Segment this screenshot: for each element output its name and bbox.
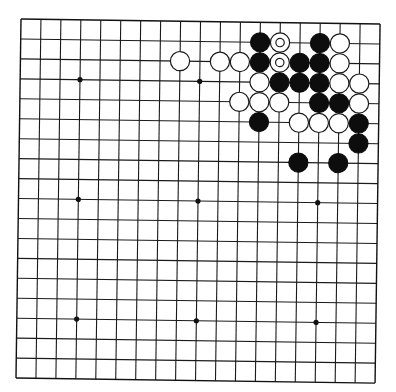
- white-stone-icon: [349, 94, 368, 113]
- white-stone-icon: [350, 74, 369, 93]
- white-stone[interactable]: [170, 51, 189, 70]
- black-stone[interactable]: [329, 94, 348, 113]
- black-stone-icon: [250, 33, 269, 52]
- black-stone-icon: [290, 53, 309, 72]
- star-point-icon: [313, 320, 318, 325]
- star-points: [74, 77, 322, 325]
- white-stone-icon: [230, 92, 249, 111]
- white-stone-icon: [230, 52, 249, 71]
- white-stone-icon: [210, 52, 229, 71]
- white-stone-icon: [270, 33, 289, 52]
- black-stone-icon: [309, 93, 328, 112]
- white-stone-icon: [289, 113, 308, 132]
- black-stone[interactable]: [270, 73, 289, 92]
- star-point-icon: [195, 198, 200, 203]
- black-stone-icon: [349, 134, 368, 153]
- star-point-icon: [315, 200, 320, 205]
- star-point-icon: [194, 318, 199, 323]
- white-stone[interactable]: [230, 52, 249, 71]
- white-stone[interactable]: [270, 53, 289, 72]
- white-stone[interactable]: [349, 94, 368, 113]
- black-stone[interactable]: [290, 53, 309, 72]
- black-stone-icon: [310, 33, 329, 52]
- black-stone[interactable]: [310, 33, 329, 52]
- white-stone[interactable]: [330, 34, 349, 53]
- black-stone-icon: [250, 53, 269, 72]
- white-stone-icon: [250, 72, 269, 91]
- black-stone[interactable]: [290, 73, 309, 92]
- star-point-icon: [197, 79, 202, 84]
- black-stone-icon: [270, 73, 289, 92]
- white-stone[interactable]: [250, 72, 269, 91]
- black-stone-icon: [328, 153, 347, 172]
- black-stone[interactable]: [309, 93, 328, 112]
- black-stone[interactable]: [289, 153, 308, 172]
- white-stone[interactable]: [230, 92, 249, 111]
- black-stone[interactable]: [249, 112, 268, 131]
- white-stone-icon: [330, 34, 349, 53]
- black-stone-icon: [289, 153, 308, 172]
- white-stone[interactable]: [269, 93, 288, 112]
- black-stone-icon: [349, 114, 368, 133]
- white-stone[interactable]: [210, 52, 229, 71]
- white-stone[interactable]: [250, 92, 269, 111]
- white-stone[interactable]: [270, 33, 289, 52]
- white-stone[interactable]: [330, 54, 349, 73]
- black-stone-icon: [310, 73, 329, 92]
- black-stone[interactable]: [310, 73, 329, 92]
- white-stone[interactable]: [350, 74, 369, 93]
- black-stone[interactable]: [349, 134, 368, 153]
- star-point-icon: [77, 77, 82, 82]
- go-board[interactable]: [0, 0, 396, 392]
- white-stone[interactable]: [309, 113, 328, 132]
- black-stone-icon: [249, 112, 268, 131]
- star-point-icon: [74, 316, 79, 321]
- black-stone[interactable]: [328, 153, 347, 172]
- white-stone-icon: [170, 51, 189, 70]
- black-stone-icon: [329, 94, 348, 113]
- white-stone-icon: [329, 113, 348, 132]
- black-stone[interactable]: [250, 53, 269, 72]
- white-stone-icon: [270, 53, 289, 72]
- white-stone-icon: [330, 74, 349, 93]
- black-stone[interactable]: [349, 114, 368, 133]
- white-stone-icon: [250, 92, 269, 111]
- black-stone[interactable]: [250, 33, 269, 52]
- black-stone-icon: [290, 73, 309, 92]
- white-stone-icon: [330, 54, 349, 73]
- board-grid-group: [16, 19, 380, 383]
- white-stone[interactable]: [330, 74, 349, 93]
- go-board-svg[interactable]: [0, 0, 396, 392]
- black-stone-icon: [310, 53, 329, 72]
- white-stone[interactable]: [329, 113, 348, 132]
- white-stone-icon: [269, 93, 288, 112]
- white-stone-icon: [309, 113, 328, 132]
- white-stone[interactable]: [289, 113, 308, 132]
- star-point-icon: [76, 197, 81, 202]
- black-stone[interactable]: [310, 53, 329, 72]
